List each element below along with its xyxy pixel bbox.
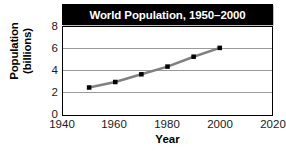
data-point-marker bbox=[87, 85, 92, 89]
chart-figure: Population (billions) 8 6 4 2 0 World Po… bbox=[0, 0, 286, 153]
y-axis-title-line2: (billions) bbox=[21, 28, 34, 74]
data-series-line bbox=[63, 27, 272, 115]
x-tick-label: 1980 bbox=[147, 118, 187, 130]
data-point-marker bbox=[191, 54, 196, 58]
series-polyline bbox=[89, 48, 220, 88]
chart-title: World Population, 1950–2000 bbox=[89, 9, 245, 21]
x-tick-label: 2020 bbox=[253, 118, 286, 130]
x-tick-label: 2000 bbox=[200, 118, 240, 130]
y-axis-title: Population (billions) bbox=[6, 3, 36, 99]
y-tick-label: 2 bbox=[44, 87, 58, 98]
x-tick-label: 1940 bbox=[42, 118, 82, 130]
x-tick-label: 1960 bbox=[94, 118, 134, 130]
chart-title-bar: World Population, 1950–2000 bbox=[62, 4, 273, 25]
y-axis-title-line1: Population bbox=[8, 22, 21, 79]
y-tick-label: 8 bbox=[44, 21, 58, 32]
data-point-marker bbox=[165, 64, 170, 68]
y-tick-label: 4 bbox=[44, 65, 58, 76]
x-axis-tick-labels: 1940 1960 1980 2000 2020 bbox=[62, 118, 273, 132]
y-tick-label: 6 bbox=[44, 43, 58, 54]
data-point-marker bbox=[113, 80, 118, 84]
y-axis-tick-labels: 8 6 4 2 0 bbox=[40, 0, 58, 153]
plot-area bbox=[62, 26, 273, 116]
data-point-marker bbox=[217, 46, 222, 50]
x-axis-title: Year bbox=[62, 133, 273, 145]
data-point-marker bbox=[139, 72, 144, 76]
